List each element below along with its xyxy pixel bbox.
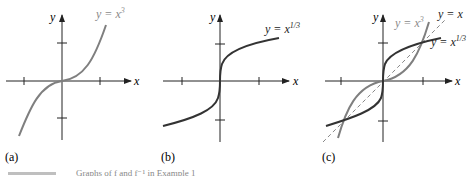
caption-bar (8, 172, 56, 175)
curve-cuberoot (163, 38, 279, 126)
x-axis-label: x (133, 74, 140, 88)
curve-label-cube: y = x3 (394, 15, 424, 30)
figure-caption: Graphs of f and f⁻¹ in Example 1 (0, 168, 473, 176)
y-axis-label: y (209, 10, 216, 24)
figure-canvas: x y y = x3 (a) x y y = x1/3 (b) (0, 0, 473, 176)
curve-label-cube: y = x3 (95, 6, 125, 21)
curve-label-cuberoot: y = x1/3 (264, 21, 300, 36)
curve-label-cuberoot: y = x1/3 (430, 34, 466, 49)
panel-label-c: (c) (322, 150, 335, 164)
caption-text: Graphs of f and f⁻¹ in Example 1 (76, 168, 195, 176)
x-axis-label: x (454, 74, 461, 88)
panel-b: x y y = x1/3 (b) (161, 10, 300, 164)
panel-c: x y y = x3 y = x y = x1/3 (c) (322, 7, 466, 164)
panel-a: x y y = x3 (a) (5, 6, 140, 164)
y-axis-label: y (49, 10, 56, 24)
panel-label-a: (a) (5, 150, 18, 164)
x-axis-label: x (292, 74, 299, 88)
panel-label-b: (b) (161, 150, 175, 164)
curve-label-identity: y = x (437, 7, 463, 21)
y-axis-label: y (372, 10, 379, 24)
